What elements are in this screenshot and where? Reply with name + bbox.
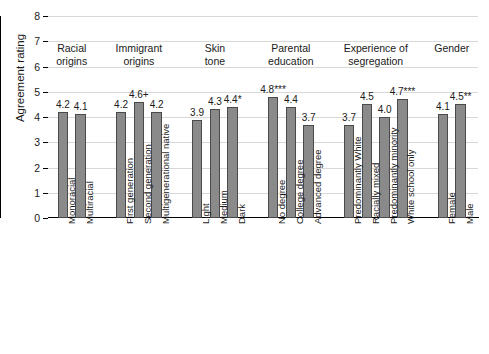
bar-value-label: 4.4 xyxy=(266,94,316,105)
x-tick-label: College degree xyxy=(295,160,305,224)
y-tick-label: 2 xyxy=(22,163,40,173)
y-tick-mark xyxy=(43,193,48,194)
x-tick-label: Male xyxy=(465,203,475,224)
y-tick-label: 4 xyxy=(22,112,40,122)
y-axis-line xyxy=(0,16,1,218)
y-tick-mark xyxy=(43,218,48,219)
y-tick-label: 8 xyxy=(22,11,40,21)
x-tick-label: Advanced degree xyxy=(313,150,323,224)
x-tick-label: Multiracial xyxy=(85,181,95,224)
group-header-gender: Gender xyxy=(392,42,489,55)
x-tick-label: Monoracial xyxy=(67,178,77,224)
x-tick-label: Light xyxy=(201,203,211,224)
bar-chart: Agreement rating 012345678 Racialorigins… xyxy=(0,0,489,354)
y-tick-label: 1 xyxy=(22,188,40,198)
gridline xyxy=(48,117,478,118)
bar-value-label: 4.7*** xyxy=(377,86,427,97)
x-tick-label: Female xyxy=(447,192,457,224)
y-axis-title: Agreement rating xyxy=(14,0,26,158)
y-tick-mark xyxy=(43,92,48,93)
y-tick-label: 0 xyxy=(22,213,40,223)
x-tick-label: No degree xyxy=(277,180,287,224)
x-tick-label: Multigenerational native xyxy=(161,124,171,224)
x-tick-label: Racially mixed xyxy=(371,163,381,224)
x-tick-label: Dark xyxy=(237,204,247,224)
group-header-line: segregation xyxy=(316,55,436,68)
x-tick-label: White school only xyxy=(406,150,416,224)
gridline xyxy=(48,142,478,143)
bar-value-label: 4.4* xyxy=(208,94,258,105)
y-tick-label: 5 xyxy=(22,87,40,97)
y-tick-mark xyxy=(43,142,48,143)
x-tick-label: Medium xyxy=(219,190,229,224)
bar-value-label: 4.5** xyxy=(436,91,486,102)
x-tick-label: Predominantly minority xyxy=(389,127,399,224)
x-tick-label: Second generation xyxy=(143,144,153,224)
y-tick-label: 3 xyxy=(22,137,40,147)
y-tick-mark xyxy=(43,168,48,169)
x-tick-label: Predominantly White xyxy=(353,136,363,224)
y-tick-mark xyxy=(43,16,48,17)
x-tick-label: First generation xyxy=(125,158,135,224)
y-tick-mark xyxy=(43,117,48,118)
gridline xyxy=(48,16,478,17)
group-header-line: Gender xyxy=(392,42,489,55)
